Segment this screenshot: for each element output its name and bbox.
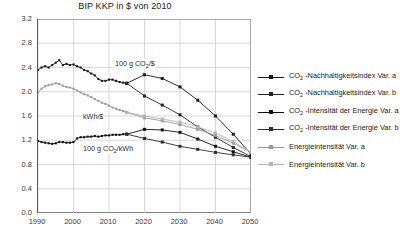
legend-key-icon: [258, 90, 284, 100]
legend-item-label: CO2 -Nachhaltigkeitsindex Var. a: [289, 71, 396, 83]
annotation-3: 100 g CO2/kWh: [82, 144, 134, 154]
legend-item-label: CO2 -Intensität der Energie Var. b: [289, 123, 399, 135]
legend-item-3[interactable]: CO2 -Intensität der Energie Var. a: [258, 107, 418, 117]
annotation-1: 100 g CO2/$: [114, 59, 156, 69]
y-tick-2-4: 2.4: [0, 63, 32, 72]
legend-item-label: Energieintensität Var. b: [289, 160, 365, 170]
chart-page: BIP KKP in $ von 2010 3.22.82.42.01.61.2…: [0, 0, 418, 240]
y-tick-1-6: 1.6: [0, 111, 32, 120]
x-tick-2000: 2000: [53, 217, 93, 226]
legend-item-label: Energieintensität Var. a: [289, 142, 365, 152]
legend-key-icon: [258, 160, 284, 170]
y-tick-1-2: 1.2: [0, 135, 32, 144]
y-tick-0-4: 0.4: [0, 184, 32, 193]
legend-key-icon: [258, 107, 284, 117]
plot-canvas: [38, 19, 251, 213]
legend-item-1[interactable]: CO2 -Nachhaltigkeitsindex Var. a: [258, 72, 418, 82]
chart-title: BIP KKP in $ von 2010: [0, 1, 250, 11]
x-tick-2010: 2010: [88, 217, 128, 226]
legend-key-icon: [258, 142, 284, 152]
x-tick-1990: 1990: [17, 217, 57, 226]
x-tick-2050: 2050: [230, 217, 270, 226]
chart-legend: CO2 -Nachhaltigkeitsindex Var. aCO2 -Nac…: [258, 72, 418, 177]
legend-item-label: CO2 -Intensität der Energie Var. a: [289, 106, 399, 118]
legend-item-2[interactable]: CO2 -Nachhaltigkeitsindex Var. b: [258, 90, 418, 100]
legend-key-icon: [258, 72, 284, 82]
x-tick-2040: 2040: [195, 217, 235, 226]
legend-item-label: CO2 -Nachhaltigkeitsindex Var. b: [289, 88, 396, 100]
legend-item-4[interactable]: CO2 -Intensität der Energie Var. b: [258, 125, 418, 135]
y-tick-2-8: 2.8: [0, 38, 32, 47]
plot-area: [37, 19, 250, 213]
y-tick-0-0: 0.0: [0, 208, 32, 217]
annotation-2: kWh/$: [82, 112, 104, 121]
legend-key-icon: [258, 125, 284, 135]
x-tick-2030: 2030: [159, 217, 199, 226]
y-tick-3-2: 3.2: [0, 14, 32, 23]
y-tick-2-0: 2.0: [0, 87, 32, 96]
y-tick-0-8: 0.8: [0, 160, 32, 169]
x-tick-2020: 2020: [124, 217, 164, 226]
legend-item-6[interactable]: Energieintensität Var. b: [258, 160, 418, 170]
legend-item-5[interactable]: Energieintensität Var. a: [258, 142, 418, 152]
